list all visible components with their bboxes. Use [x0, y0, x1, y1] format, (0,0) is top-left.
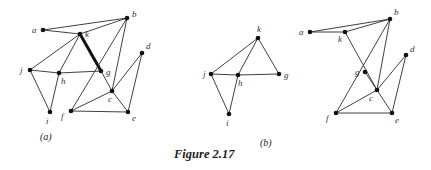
edge-k-g: [258, 38, 279, 74]
graph-a: abkdjhgcfei(a): [19, 9, 151, 143]
node-d: [404, 53, 409, 58]
edge-k-c: [345, 32, 377, 90]
node-label-b: b: [394, 7, 399, 17]
node-f: [69, 109, 74, 114]
edge-c-e: [377, 90, 392, 113]
node-j: [209, 72, 214, 77]
edge-h-i: [229, 75, 238, 114]
node-label-e: e: [132, 113, 136, 123]
node-i: [227, 112, 232, 117]
figure-canvas: abkdjhgcfei(a)kjhgi(b)abkdgcfeFigure 2.1…: [0, 0, 431, 170]
edge-k-h: [59, 34, 80, 73]
node-label-g: g: [355, 67, 360, 77]
node-label-e: e: [395, 115, 399, 125]
node-a: [308, 30, 313, 35]
figure-title: Figure 2.17: [173, 147, 235, 161]
node-e: [126, 110, 131, 115]
node-b: [388, 17, 393, 22]
node-label-c: c: [108, 94, 112, 104]
node-h: [57, 71, 62, 76]
node-label-f: f: [61, 111, 65, 121]
node-label-i: i: [46, 116, 49, 126]
edge-k-h: [238, 38, 258, 75]
node-label-a: a: [32, 25, 37, 35]
node-g: [277, 72, 282, 77]
node-label-h: h: [238, 78, 243, 88]
node-g: [363, 70, 368, 75]
node-label-i: i: [226, 118, 229, 128]
edge-f-e: [71, 111, 128, 112]
caption-a: (a): [40, 131, 52, 143]
node-k: [78, 32, 83, 37]
node-g: [99, 69, 104, 74]
node-f: [334, 111, 339, 116]
edge-k-g: [80, 34, 101, 71]
edge-j-h: [211, 74, 238, 75]
node-label-g: g: [106, 67, 111, 77]
node-label-a: a: [299, 27, 304, 37]
node-label-j: j: [19, 65, 23, 75]
node-c: [110, 89, 115, 94]
node-h: [236, 73, 241, 78]
node-label-b: b: [132, 9, 137, 19]
edge-g-c: [365, 72, 377, 90]
node-label-h: h: [61, 76, 66, 86]
node-j: [28, 68, 33, 73]
node-k: [343, 30, 348, 35]
edge-j-h: [30, 70, 59, 73]
node-b: [125, 16, 130, 21]
node-label-j: j: [202, 69, 206, 79]
edge-j-i: [211, 74, 229, 114]
node-a: [41, 28, 46, 33]
node-label-f: f: [326, 113, 330, 123]
node-label-k: k: [257, 24, 262, 34]
edge-k-j: [211, 38, 258, 74]
edge-k-j: [30, 34, 80, 70]
node-e: [390, 111, 395, 116]
node-c: [375, 88, 380, 93]
node-label-g: g: [284, 70, 289, 80]
node-label-d: d: [146, 41, 151, 51]
caption-b-left: (b): [260, 137, 272, 149]
node-d: [140, 51, 145, 56]
edge-h-g: [238, 74, 279, 75]
edge-a-b: [310, 19, 390, 32]
edge-j-i: [30, 70, 50, 112]
edge-b-c: [112, 18, 127, 91]
node-label-c: c: [369, 93, 373, 103]
edge-h-i: [50, 73, 59, 112]
edge-a-k: [43, 30, 80, 34]
node-label-k: k: [338, 34, 343, 44]
node-k: [256, 36, 261, 41]
graph-b-right: abkdgcfe: [299, 7, 415, 125]
edge-c-e: [112, 91, 128, 112]
graph-b-left: kjhgi(b): [202, 24, 289, 149]
node-i: [48, 110, 53, 115]
node-label-d: d: [410, 44, 415, 54]
